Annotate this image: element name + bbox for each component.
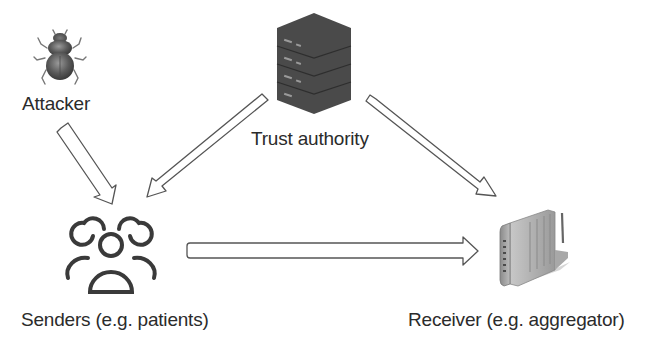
trust-authority-label: Trust authority: [251, 128, 369, 150]
senders-label: Senders (e.g. patients): [21, 309, 209, 331]
router-icon: [0, 0, 668, 348]
attacker-label: Attacker: [22, 93, 90, 115]
receiver-label: Receiver (e.g. aggregator): [408, 309, 625, 331]
diagram-canvas: Attacker Trust authority Senders (e.g. p…: [0, 0, 668, 348]
